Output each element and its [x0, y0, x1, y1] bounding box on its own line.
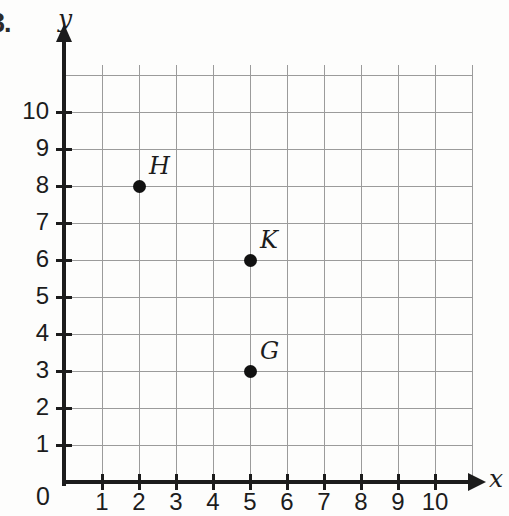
grid-line-vertical [361, 65, 362, 482]
problem-number: 3. [0, 8, 11, 39]
y-axis-tick-label: 3 [9, 356, 49, 384]
plotted-point[interactable] [244, 365, 257, 378]
y-axis-label: y [58, 4, 72, 33]
x-axis-tick-label: 9 [378, 488, 418, 516]
x-axis-tick-label: 10 [415, 488, 455, 516]
x-axis-tick-label: 1 [82, 488, 122, 516]
y-axis-tick-label: 8 [9, 171, 49, 199]
y-axis-tick [56, 444, 72, 447]
grid-line-vertical [250, 65, 251, 482]
grid-line-horizontal [65, 223, 472, 224]
x-axis-label: x [489, 464, 503, 493]
grid-line-vertical [472, 65, 473, 482]
grid-line-vertical [398, 65, 399, 482]
plotted-point-label: K [260, 226, 278, 254]
y-axis [62, 38, 66, 486]
plotted-point-label: H [149, 152, 170, 180]
y-axis-tick [56, 259, 72, 262]
plotted-point[interactable] [244, 254, 257, 267]
coordinate-plane-worksheet: 3. y x 0 1234567891012345678910 HKG [0, 0, 509, 516]
grid-line-horizontal [65, 334, 472, 335]
y-axis-tick [56, 111, 72, 114]
origin-tick-label: 0 [36, 482, 50, 511]
y-axis-tick [56, 407, 72, 410]
grid-line-vertical [176, 65, 177, 482]
y-axis-tick-label: 9 [9, 134, 49, 162]
grid-line-horizontal [65, 186, 472, 187]
x-axis [62, 480, 473, 484]
x-axis-tick-label: 2 [119, 488, 159, 516]
grid-line-horizontal [65, 445, 472, 446]
x-axis-arrow-icon [468, 473, 486, 491]
y-axis-tick-label: 5 [9, 282, 49, 310]
x-axis-tick-label: 4 [193, 488, 233, 516]
y-axis-tick-label: 7 [9, 208, 49, 236]
y-axis-tick-label: 10 [9, 97, 49, 125]
grid-line-horizontal [65, 112, 472, 113]
grid-line-horizontal [65, 75, 472, 76]
y-axis-tick [56, 296, 72, 299]
x-axis-tick-label: 3 [156, 488, 196, 516]
x-axis-tick-label: 5 [230, 488, 270, 516]
grid-line-horizontal [65, 260, 472, 261]
y-axis-tick [56, 370, 72, 373]
y-axis-tick-label: 2 [9, 393, 49, 421]
y-axis-tick [56, 185, 72, 188]
x-axis-tick-label: 6 [267, 488, 307, 516]
grid-line-vertical [102, 65, 103, 482]
grid-line-vertical [287, 65, 288, 482]
y-axis-tick [56, 333, 72, 336]
grid-line-vertical [435, 65, 436, 482]
y-axis-tick-label: 6 [9, 245, 49, 273]
x-axis-tick-label: 7 [304, 488, 344, 516]
grid-line-horizontal [65, 408, 472, 409]
grid-line-vertical [213, 65, 214, 482]
y-axis-tick-label: 4 [9, 319, 49, 347]
y-axis-tick [56, 148, 72, 151]
plotted-point[interactable] [133, 180, 146, 193]
grid-line-vertical [324, 65, 325, 482]
y-axis-tick-label: 1 [9, 430, 49, 458]
grid-line-horizontal [65, 297, 472, 298]
x-axis-tick-label: 8 [341, 488, 381, 516]
grid-line-horizontal [65, 149, 472, 150]
y-axis-tick [56, 222, 72, 225]
grid-line-vertical [139, 65, 140, 482]
plot-area [65, 65, 472, 482]
grid-line-horizontal [65, 371, 472, 372]
plotted-point-label: G [260, 337, 279, 365]
